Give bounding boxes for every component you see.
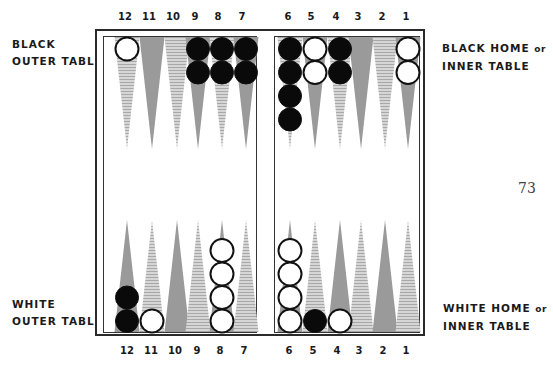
point-triangle[interactable]: [373, 37, 398, 149]
black-checker[interactable]: [211, 38, 234, 61]
point-triangle[interactable]: [140, 37, 165, 149]
black-checker[interactable]: [279, 61, 302, 84]
white-checker[interactable]: [279, 239, 302, 262]
white-checker[interactable]: [397, 61, 420, 84]
black-checker[interactable]: [116, 286, 139, 309]
white-checker[interactable]: [304, 38, 327, 61]
black-checker[interactable]: [279, 85, 302, 108]
white-checker[interactable]: [329, 310, 352, 333]
white-checker[interactable]: [279, 310, 302, 333]
white-checker[interactable]: [279, 263, 302, 286]
white-checker[interactable]: [211, 263, 234, 286]
white-checker[interactable]: [279, 286, 302, 309]
black-checker[interactable]: [211, 61, 234, 84]
white-checker[interactable]: [304, 61, 327, 84]
white-checker[interactable]: [397, 38, 420, 61]
checkers-layer: [116, 38, 420, 333]
black-checker[interactable]: [329, 61, 352, 84]
black-checker[interactable]: [279, 38, 302, 61]
point-triangle[interactable]: [165, 220, 190, 332]
black-checker[interactable]: [329, 38, 352, 61]
white-checker[interactable]: [141, 310, 164, 333]
point-triangle[interactable]: [349, 220, 374, 332]
point-triangle[interactable]: [396, 220, 421, 332]
point-triangle[interactable]: [186, 220, 211, 332]
black-checker[interactable]: [235, 38, 258, 61]
point-triangle[interactable]: [234, 220, 259, 332]
black-checker[interactable]: [279, 108, 302, 131]
points-layer: [115, 37, 421, 332]
white-checker[interactable]: [116, 38, 139, 61]
point-triangle[interactable]: [165, 37, 190, 149]
black-checker[interactable]: [116, 310, 139, 333]
white-checker[interactable]: [211, 239, 234, 262]
point-triangle[interactable]: [373, 220, 398, 332]
black-checker[interactable]: [187, 61, 210, 84]
black-checker[interactable]: [187, 38, 210, 61]
white-checker[interactable]: [211, 310, 234, 333]
black-checker[interactable]: [304, 310, 327, 333]
white-checker[interactable]: [211, 286, 234, 309]
black-checker[interactable]: [235, 61, 258, 84]
board-drawing: [0, 0, 553, 365]
point-triangle[interactable]: [349, 37, 374, 149]
